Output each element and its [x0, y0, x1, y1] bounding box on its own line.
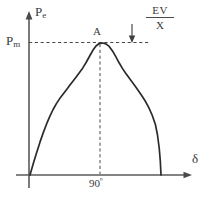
y-axis-label: Pe [35, 5, 46, 20]
evx-amplitude-annotation: EV X [143, 4, 177, 31]
evx-numerator: EV [143, 4, 177, 16]
down-arrow-icon [129, 36, 135, 44]
y-axis-arrowhead [26, 11, 33, 20]
evx-denominator: X [143, 19, 177, 31]
pm-level-label: Pm [6, 34, 20, 49]
power-angle-curve-figure: Pe Pm A 90º δ EV X [0, 0, 210, 198]
degree-symbol-icon: º [100, 177, 102, 186]
peak-point-label: A [93, 26, 101, 37]
x-axis-tick-label-90: 90º [89, 178, 102, 189]
power-angle-curve [30, 43, 161, 175]
plot-area [0, 0, 210, 198]
fraction-bar [146, 17, 174, 18]
x-axis-label: δ [192, 152, 198, 165]
x-axis-arrowhead [184, 172, 193, 178]
pm-level-label-subscript: m [13, 39, 20, 49]
x-axis-tick-value: 90 [89, 177, 100, 189]
y-axis-label-subscript: e [42, 10, 46, 20]
